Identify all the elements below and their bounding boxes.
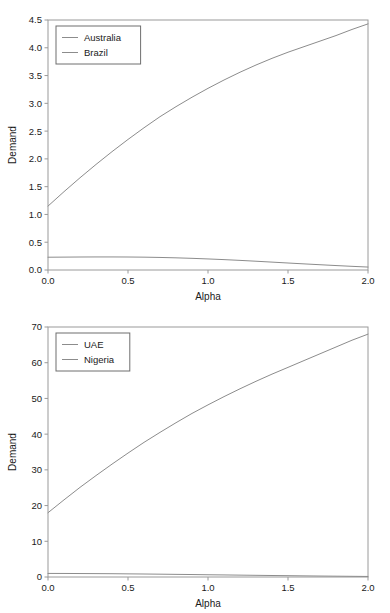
x-tick-label: 1.5 xyxy=(281,275,294,286)
chart-panel-bottom: 0102030405060700.00.51.01.52.0AlphaDeman… xyxy=(0,307,390,613)
legend-label-brazil: Brazil xyxy=(84,47,108,58)
x-tick-label: 1.0 xyxy=(201,275,214,286)
y-tick-label: 60 xyxy=(31,357,42,368)
y-tick-label: 20 xyxy=(31,500,42,511)
x-tick-label: 2.0 xyxy=(361,582,374,593)
y-tick-label: 2.0 xyxy=(29,153,42,164)
y-tick-label: 50 xyxy=(31,393,42,404)
chart-panel-top: 0.00.51.01.52.02.53.03.54.04.50.00.51.01… xyxy=(0,0,390,306)
y-tick-label: 0.0 xyxy=(29,264,42,275)
x-tick-label: 0.5 xyxy=(121,275,134,286)
x-tick-label: 0.0 xyxy=(41,582,54,593)
y-tick-label: 3.5 xyxy=(29,70,42,81)
y-axis-title: Demand xyxy=(7,433,18,471)
legend-label-australia: Australia xyxy=(84,32,122,43)
chart-svg-bottom: 0102030405060700.00.51.01.52.0AlphaDeman… xyxy=(0,307,390,613)
y-axis-title: Demand xyxy=(7,126,18,164)
y-tick-label: 1.0 xyxy=(29,209,42,220)
y-tick-label: 1.5 xyxy=(29,181,42,192)
x-tick-label: 0.0 xyxy=(41,275,54,286)
x-tick-label: 1.0 xyxy=(201,582,214,593)
y-tick-label: 10 xyxy=(31,536,42,547)
legend-label-uae: UAE xyxy=(84,339,104,350)
figure-root: 0.00.51.01.52.02.53.03.54.04.50.00.51.01… xyxy=(0,0,390,613)
chart-svg-top: 0.00.51.01.52.02.53.03.54.04.50.00.51.01… xyxy=(0,0,390,306)
y-tick-label: 4.0 xyxy=(29,42,42,53)
y-tick-label: 0.5 xyxy=(29,237,42,248)
y-tick-label: 2.5 xyxy=(29,126,42,137)
x-tick-label: 1.5 xyxy=(281,582,294,593)
x-axis-title: Alpha xyxy=(195,598,221,609)
y-tick-label: 30 xyxy=(31,464,42,475)
y-tick-label: 0 xyxy=(37,571,42,582)
y-tick-label: 3.0 xyxy=(29,98,42,109)
y-tick-label: 70 xyxy=(31,321,42,332)
x-axis-title: Alpha xyxy=(195,291,221,302)
legend-label-nigeria: Nigeria xyxy=(84,354,115,365)
x-tick-label: 2.0 xyxy=(361,275,374,286)
y-tick-label: 4.5 xyxy=(29,14,42,25)
y-tick-label: 40 xyxy=(31,429,42,440)
x-tick-label: 0.5 xyxy=(121,582,134,593)
